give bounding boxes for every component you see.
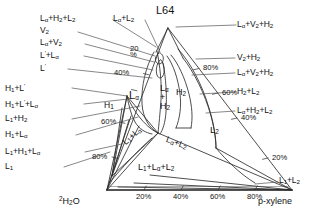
label-lprime-lalpha: L'+Lα (40, 50, 59, 61)
region-label-l2: L2 (210, 125, 219, 135)
right-tick-20: 20% (272, 153, 287, 162)
label-h1-lprime: H1+L' (5, 83, 25, 94)
bottom-tick-20: 20% (136, 192, 151, 201)
region-label-h1: H1 (104, 101, 114, 110)
label-v2: V2 (40, 26, 49, 36)
label-lalpha-v2: Lα+V2 (40, 38, 62, 48)
label-v2-h2: V2+H2 (237, 53, 260, 63)
region-label-lalpha-h2: Lα+H2 (160, 84, 170, 111)
left-tick-20: 20% (130, 46, 138, 59)
bottom-tick-40: 40% (173, 192, 188, 201)
label-l1-l2: L1+L2 (279, 176, 300, 186)
leader-line-top (145, 20, 160, 52)
apex-label-l64: L64 (156, 4, 174, 16)
region-label-h2: H2 (176, 88, 186, 97)
label-lalpha-v2-h2-top: Lα+V2+H2 (237, 20, 273, 30)
label-l1-h2: L1+H2 (5, 114, 27, 124)
label-h1-lprime-lalpha: H1+L'+Lα (5, 99, 38, 110)
label-lalpha-v2-h2-lower: Lα+V2+H2 (237, 68, 273, 78)
vertex-label-d2o: 2H2O (59, 195, 80, 206)
left-tick-40: 40% (114, 68, 129, 77)
label-l1-h1-lalpha: L1+H1+Lα (5, 147, 40, 157)
left-tick-80: 80% (92, 152, 107, 161)
label-l1: L1 (5, 162, 13, 172)
vertex-label-pxylene: p-xylene (258, 196, 292, 206)
ternary-phase-diagram: L64 Lα+L2 Lα+H2+L2 V2 Lα+V2 L'+Lα L' H1+… (0, 0, 312, 218)
bottom-tick-60: 60% (210, 192, 225, 201)
label-lalpha-h2-l2: Lα+H2+L2 (40, 14, 75, 24)
region-label-lalpha: Lα (129, 90, 139, 101)
label-lprime: L' (40, 63, 46, 73)
right-tick-80: 80% (203, 63, 218, 72)
region-label-l1-lalpha-l2: L1+Lα+L2 (138, 163, 174, 172)
right-tick-60: 60% (222, 88, 237, 97)
label-lalpha-l2: Lα+L2 (113, 14, 134, 24)
left-tick-60: 60% (101, 117, 116, 126)
label-h1-lalpha: H1+Lα (5, 130, 27, 140)
label-h2-l2: H2+L2 (237, 87, 259, 97)
right-tick-40: 40% (241, 113, 256, 122)
